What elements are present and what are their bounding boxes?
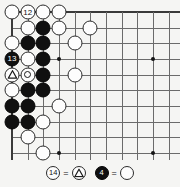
stone-white[interactable] bbox=[20, 130, 35, 145]
stone-white[interactable] bbox=[5, 67, 20, 82]
legend-item: 4= bbox=[95, 166, 134, 180]
legend-move-label: 4 bbox=[96, 167, 108, 179]
stone-white[interactable] bbox=[51, 98, 66, 113]
stone-black[interactable] bbox=[36, 51, 51, 66]
stone-white[interactable] bbox=[36, 114, 51, 129]
triangle-mark-icon bbox=[7, 70, 17, 79]
grid-line-vertical bbox=[106, 12, 107, 160]
stone-white[interactable] bbox=[67, 67, 82, 82]
grid-line-vertical bbox=[169, 12, 170, 160]
legend-move-stone: 4 bbox=[95, 166, 109, 180]
grid-line-vertical bbox=[122, 12, 123, 160]
stone-white[interactable] bbox=[5, 5, 20, 20]
star-point bbox=[57, 57, 61, 61]
stone-black[interactable] bbox=[20, 36, 35, 51]
star-point bbox=[57, 151, 61, 155]
legend-equals-sign: = bbox=[63, 168, 68, 178]
stone-label: 12 bbox=[21, 6, 34, 19]
stone-black[interactable] bbox=[5, 98, 20, 113]
triangle-mark-icon bbox=[74, 168, 84, 177]
star-point bbox=[151, 151, 155, 155]
stone-black[interactable] bbox=[20, 98, 35, 113]
star-point bbox=[151, 57, 155, 61]
move-stone-13[interactable]: 13 bbox=[5, 51, 20, 66]
stone-black[interactable] bbox=[36, 67, 51, 82]
stone-white[interactable] bbox=[36, 145, 51, 160]
grid-line-horizontal bbox=[12, 106, 180, 107]
legend-equals-sign: = bbox=[112, 168, 117, 178]
go-diagram-root: 1213 14=4= bbox=[0, 0, 180, 187]
stone-black[interactable] bbox=[36, 83, 51, 98]
go-board[interactable]: 1213 bbox=[0, 0, 180, 160]
stone-black[interactable] bbox=[36, 36, 51, 51]
grid-line-horizontal bbox=[12, 137, 180, 138]
stone-white[interactable] bbox=[5, 36, 20, 51]
stone-white[interactable] bbox=[51, 5, 66, 20]
circle-mark-icon bbox=[24, 71, 31, 78]
legend-reference-stone bbox=[120, 166, 134, 180]
stone-black[interactable] bbox=[20, 114, 35, 129]
move-stone-12[interactable]: 12 bbox=[20, 5, 35, 20]
stone-white[interactable] bbox=[20, 67, 35, 82]
stone-white[interactable] bbox=[83, 20, 98, 35]
move-legend: 14=4= bbox=[0, 158, 180, 187]
legend-item: 14= bbox=[46, 166, 85, 180]
stone-white[interactable] bbox=[20, 20, 35, 35]
stone-white[interactable] bbox=[36, 5, 51, 20]
stone-white[interactable] bbox=[20, 51, 35, 66]
stone-white[interactable] bbox=[51, 20, 66, 35]
stone-black[interactable] bbox=[5, 114, 20, 129]
stone-black[interactable] bbox=[20, 83, 35, 98]
legend-reference-stone bbox=[72, 166, 86, 180]
stone-white[interactable] bbox=[5, 83, 20, 98]
legend-move-label: 14 bbox=[47, 167, 59, 179]
stone-white[interactable] bbox=[67, 36, 82, 51]
grid-line-vertical bbox=[137, 12, 138, 160]
grid-line-vertical bbox=[153, 12, 154, 160]
stone-black[interactable] bbox=[36, 20, 51, 35]
grid-line-vertical bbox=[75, 12, 76, 160]
legend-move-stone: 14 bbox=[46, 166, 60, 180]
stone-label: 13 bbox=[6, 52, 19, 65]
